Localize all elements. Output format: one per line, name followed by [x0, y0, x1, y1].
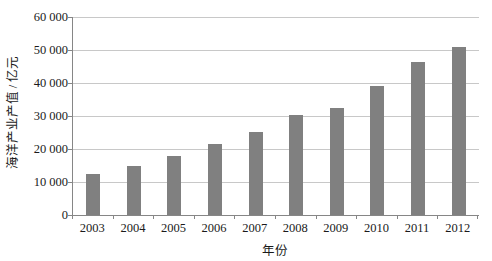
bar: [167, 156, 181, 215]
bar-slot: [276, 17, 317, 215]
x-axis-tick-label: 2006: [194, 221, 235, 239]
x-axis-tick-slot: [275, 215, 316, 219]
bar: [86, 174, 100, 215]
x-axis-tick-label: 2003: [72, 221, 113, 239]
x-axis-tick-marks: [72, 215, 478, 219]
x-axis-tick-mark: [316, 215, 317, 219]
x-axis-tick-mark: [477, 215, 478, 219]
x-axis-tick-slot: [397, 215, 438, 219]
x-axis-tick-mark: [234, 215, 235, 219]
x-axis-tick-mark: [72, 215, 73, 219]
y-axis-tick-label: 20 000: [22, 142, 68, 157]
y-axis-title-text: 海洋产业产值 / 亿元: [3, 56, 22, 170]
x-axis-tick-slot: [153, 215, 194, 219]
x-axis-title: 年份: [72, 240, 478, 259]
bar: [411, 62, 425, 215]
x-axis-tick-label: 2009: [316, 221, 357, 239]
bar: [370, 86, 384, 215]
bar-slot: [317, 17, 358, 215]
bar: [249, 132, 263, 215]
bar-slot: [235, 17, 276, 215]
x-axis-tick-mark: [356, 215, 357, 219]
plot-area: [72, 17, 479, 216]
x-axis-tick-mark: [153, 215, 154, 219]
x-axis-tick-mark: [397, 215, 398, 219]
bar-slot: [154, 17, 195, 215]
x-axis-tick-slot: [113, 215, 154, 219]
bar: [452, 47, 466, 215]
y-axis-tick-label: 30 000: [22, 109, 68, 124]
x-axis-tick-slot: [194, 215, 235, 219]
x-axis-tick-slot: [234, 215, 275, 219]
x-axis-tick-label: 2004: [113, 221, 154, 239]
bar: [289, 115, 303, 215]
bar-slot: [438, 17, 479, 215]
y-axis-tick-label: 60 000: [22, 10, 68, 25]
x-axis-tick-label: 2007: [234, 221, 275, 239]
x-axis-tick-mark: [194, 215, 195, 219]
bar-slot: [195, 17, 236, 215]
x-axis-tick-slot: [356, 215, 397, 219]
x-axis-tick-labels: 2003200420052006200720082009201020112012: [72, 221, 478, 239]
bar-series: [73, 17, 479, 215]
y-axis-tick-label: 40 000: [22, 76, 68, 91]
y-axis-tick-label: 10 000: [22, 175, 68, 190]
bar: [208, 144, 222, 215]
x-axis-tick-mark: [437, 215, 438, 219]
x-axis-tick-label: 2011: [397, 221, 438, 239]
bar-slot: [114, 17, 155, 215]
x-axis-tick-label: 2012: [437, 221, 478, 239]
x-axis-tick-mark: [113, 215, 114, 219]
y-axis-tick-label: 0: [22, 208, 68, 223]
x-axis-tick-label: 2008: [275, 221, 316, 239]
y-axis-title: 海洋产业产值 / 亿元: [0, 0, 24, 225]
bar-slot: [357, 17, 398, 215]
bar-slot: [73, 17, 114, 215]
x-axis-tick-slot: [72, 215, 113, 219]
y-axis-tick-labels: 010 00020 00030 00040 00050 00060 000: [22, 0, 68, 261]
bar: [330, 108, 344, 215]
y-axis-tick-label: 50 000: [22, 43, 68, 58]
x-axis-tick-label: 2005: [153, 221, 194, 239]
bar-chart: 海洋产业产值 / 亿元 010 00020 00030 00040 00050 …: [0, 0, 492, 261]
bar: [127, 166, 141, 216]
x-axis-tick-slot: [316, 215, 357, 219]
x-axis-tick-slot: [437, 215, 478, 219]
x-axis-tick-label: 2010: [356, 221, 397, 239]
bar-slot: [398, 17, 439, 215]
x-axis-tick-mark: [275, 215, 276, 219]
